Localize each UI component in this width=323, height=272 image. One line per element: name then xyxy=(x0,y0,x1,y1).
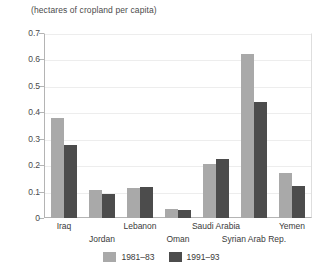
bar xyxy=(203,164,216,218)
bar xyxy=(165,209,178,218)
x-tick-label: Iraq xyxy=(57,221,72,231)
bar xyxy=(241,54,254,218)
bar xyxy=(89,190,102,218)
y-tick-label: 0.3 xyxy=(10,134,40,144)
y-tick-label: 0.7 xyxy=(10,28,40,38)
bar xyxy=(279,173,292,218)
bar-group xyxy=(203,34,229,218)
y-tick-label: 0.6 xyxy=(10,54,40,64)
x-tick-label: Syrian Arab Rep. xyxy=(222,234,286,244)
bar xyxy=(140,187,153,218)
y-tick-label: 0.2 xyxy=(10,160,40,170)
bar xyxy=(127,188,140,218)
bar-group xyxy=(279,34,305,218)
bar xyxy=(102,194,115,218)
axis-caption: (hectares of cropland per capita) xyxy=(31,5,157,15)
legend-swatch xyxy=(103,252,116,262)
x-tick-label: Lebanon xyxy=(123,221,156,231)
bar xyxy=(254,102,267,218)
bar xyxy=(51,118,64,218)
bar xyxy=(178,210,191,218)
bar xyxy=(64,145,77,218)
bar xyxy=(292,186,305,218)
bar xyxy=(216,159,229,218)
legend-swatch xyxy=(169,252,182,262)
legend-label: 1991–93 xyxy=(187,252,220,262)
x-tick-label: Yemen xyxy=(279,221,305,231)
bar-group xyxy=(127,34,153,218)
bar-group xyxy=(51,34,77,218)
legend-entry: 1981–83 xyxy=(103,252,154,262)
y-tick-label: 0.1 xyxy=(10,187,40,197)
x-tick-label: Saudi Arabia xyxy=(192,221,240,231)
bar-chart-figure: (hectares of cropland per capita) 00.10.… xyxy=(0,0,323,272)
bars-layer xyxy=(45,34,311,218)
y-tick-label: 0.5 xyxy=(10,81,40,91)
chart-legend: 1981–831991–93 xyxy=(0,252,323,262)
legend-label: 1981–83 xyxy=(121,252,154,262)
y-tick-label: 0.4 xyxy=(10,107,40,117)
x-tick-label: Jordan xyxy=(89,234,115,244)
y-tick-label: 0 xyxy=(10,213,40,223)
bar-group xyxy=(89,34,115,218)
bar-group xyxy=(165,34,191,218)
bar-group xyxy=(241,34,267,218)
legend-entry: 1991–93 xyxy=(169,252,220,262)
x-tick-label: Oman xyxy=(166,234,189,244)
